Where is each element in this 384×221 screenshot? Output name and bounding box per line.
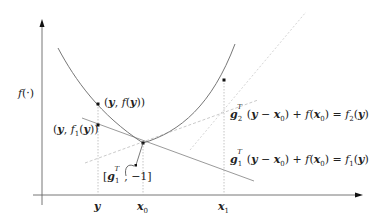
tangent-line-x1 [190,12,306,150]
x-axis-arrow-icon [355,193,363,198]
subgradient-vector-label: [g1T, −1] [103,170,152,185]
subgradient-diagram: f(·) (y, f(y)) (y, f1(y)) [g1T, −1] g2T(… [0,0,384,221]
x-tick-x0: x0 [137,201,148,215]
point-x1 [223,79,226,82]
x-tick-x1: x1 [218,201,229,215]
tangent-f1-equation: g1T(y − x0) + f(x0) = f1(y) [230,153,369,168]
tangent-f2-equation: g2T(y − x0) + f(x0) = f2(y) [230,108,369,123]
subgradient-vector [136,143,143,165]
point-y-fy [97,103,100,106]
y-axis-arrow-icon [40,19,45,27]
point-label-y-f1y: (y, f1(y)) [53,124,99,138]
y-axis-label: f(·) [18,88,34,99]
x-tick-y: y [94,201,100,212]
point-label-y-fy: (y, f(y)) [104,97,145,108]
subgradient-vector-tip [135,164,138,167]
